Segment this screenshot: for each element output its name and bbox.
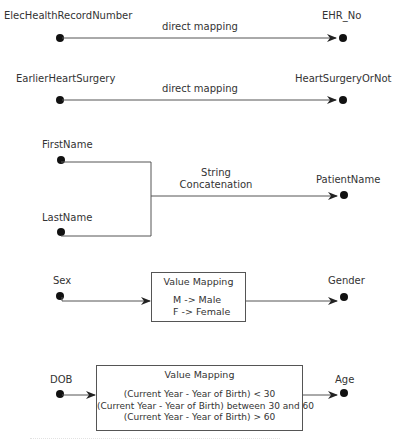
source-field-firstname: FirstName (42, 139, 93, 151)
source-field-sex: Sex (53, 275, 71, 287)
value-mapping-box-gender: Value Mapping M -> Male F -> Female (151, 272, 246, 322)
value-mapping-rule: M -> Male (173, 294, 245, 306)
target-field-gender: Gender (328, 275, 365, 287)
target-field-patientname: PatientName (316, 174, 380, 186)
target-field-surgery: HeartSurgeryOrNot (295, 73, 391, 85)
source-field-lastname: LastName (42, 212, 92, 224)
target-dot-surgery[interactable] (339, 96, 347, 104)
source-field-ehr: ElecHealthRecordNumber (4, 10, 132, 22)
value-mapping-title-age: Value Mapping (97, 369, 302, 381)
source-field-dob: DOB (50, 374, 72, 386)
value-mapping-rule: (Current Year - Year of Birth) > 60 (97, 412, 302, 424)
target-field-age: Age (335, 374, 354, 386)
target-dot-gender[interactable] (340, 293, 348, 301)
concatenation-bracket (61, 162, 151, 236)
source-dot-sex[interactable] (56, 292, 64, 300)
target-dot-patientname[interactable] (340, 191, 348, 199)
transform-label-ehr: direct mapping (150, 21, 250, 33)
value-mapping-rule: (Current Year - Year of Birth) between 3… (97, 401, 302, 413)
transform-label-surgery: direct mapping (150, 83, 250, 95)
source-dot-dob[interactable] (56, 390, 64, 398)
transform-label-concat-line1: String (166, 167, 266, 179)
arrow-sex-into-box (62, 297, 150, 301)
target-dot-age[interactable] (340, 389, 348, 397)
source-dot-firstname[interactable] (57, 156, 65, 164)
target-dot-ehr[interactable] (339, 34, 347, 42)
value-mapping-box-age: Value Mapping (Current Year - Year of Bi… (96, 365, 303, 431)
cropped-caption-fragment (30, 438, 280, 443)
source-dot-lastname[interactable] (57, 228, 65, 236)
value-mapping-rule: F -> Female (173, 306, 245, 318)
mapping-surgery-connector (56, 96, 347, 104)
transform-label-concat-line2: Concatenation (166, 179, 266, 191)
value-mapping-rule: (Current Year - Year of Birth) < 30 (97, 389, 302, 401)
target-field-ehr: EHR_No (322, 10, 361, 22)
source-field-surgery: EarlierHeartSurgery (16, 73, 115, 85)
value-mapping-title-gender: Value Mapping (152, 276, 245, 288)
mapping-ehr-connector (56, 34, 347, 42)
